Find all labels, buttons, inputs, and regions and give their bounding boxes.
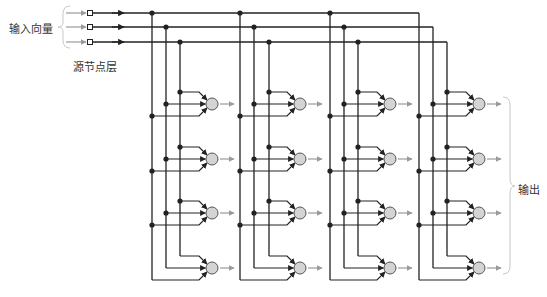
junction-dot [149,10,154,15]
junction-dot [237,222,242,227]
output-neuron [294,153,306,165]
junction-dot [177,144,182,149]
synapse-wire [180,92,207,100]
junction-dot [251,210,256,215]
output-neuron [384,153,396,165]
synapse-wire [447,256,474,264]
junction-dot [327,222,332,227]
junction-dot [251,156,256,161]
junction-dot [149,168,154,173]
output-neurons [206,97,515,274]
junction-dot [444,198,449,203]
junction-dot [444,89,449,94]
output-brace [503,97,515,274]
output-neuron [294,207,306,219]
junction-dot [355,39,360,44]
output-neuron [294,98,306,110]
junction-dot [355,89,360,94]
output-neuron [473,98,485,110]
synapse-wire [419,272,474,280]
synapse-wire [269,256,295,264]
junction-dot [341,156,346,161]
junction-dot [177,198,182,203]
synapse-wire [269,201,295,209]
output-neuron [206,98,218,110]
output-neuron [206,262,218,274]
input-vector-label: 输入向量 [9,20,53,36]
junction-dot [266,89,271,94]
junction-dot [237,168,242,173]
junction-dot [251,101,256,106]
junction-dot [177,39,182,44]
junction-dot [341,210,346,215]
junction-dot [355,198,360,203]
source-node [88,11,93,16]
output-neuron [384,207,396,219]
output-neuron [473,153,485,165]
output-label: 输出 [518,181,540,197]
synapse-wire [447,201,474,209]
synapse-wire [152,272,207,280]
synapse-wire [180,201,207,209]
junction-dot [237,113,242,118]
junction-dot [177,89,182,94]
synapse-wire [240,217,295,225]
junction-dot [430,101,435,106]
synapse-wire [358,147,385,155]
junction-dot [327,10,332,15]
junction-dot [163,156,168,161]
synapse-wire [180,256,207,264]
output-neuron [473,207,485,219]
junction-dot [163,101,168,106]
synapse-wire [240,272,295,280]
synapse-wire [358,256,385,264]
junction-dot [327,168,332,173]
output-neuron [206,153,218,165]
synapse-wire [240,163,295,171]
junction-dot [341,24,346,29]
synapse-wire [447,92,474,100]
synapse-wire [330,272,385,280]
synapse-wire [447,147,474,155]
synapse-wire [358,92,385,100]
synapse-wire [358,201,385,209]
junction-dot [149,222,154,227]
source-node [88,40,93,45]
output-neuron [473,262,485,274]
output-neuron [384,98,396,110]
synapse-wire [269,147,295,155]
junction-dot [327,113,332,118]
junction-dot [355,144,360,149]
junction-dot [266,39,271,44]
junction-dot [416,113,421,118]
junction-dot [266,144,271,149]
junction-dot [163,24,168,29]
junction-dot [430,156,435,161]
source-layer-label: 源节点层 [73,58,117,74]
junction-dot [444,144,449,149]
junction-dot [416,222,421,227]
junction-dot [416,168,421,173]
output-neuron [384,262,396,274]
source-node [88,25,93,30]
connection-wires [58,6,474,280]
junction-dot [237,10,242,15]
synapse-wire [269,92,295,100]
junction-dot [341,101,346,106]
network-diagram [0,0,547,297]
junction-dot [163,210,168,215]
junction-dot [266,198,271,203]
junction-dot [430,210,435,215]
synapse-wire [240,108,295,116]
synapse-wire [180,147,207,155]
junction-dot [251,24,256,29]
junction-dot [149,113,154,118]
output-neuron [206,207,218,219]
output-neuron [294,262,306,274]
